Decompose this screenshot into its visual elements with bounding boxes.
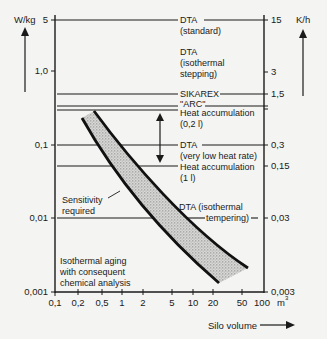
svg-text:(1 l): (1 l) — [180, 173, 196, 183]
x-unit: m — [277, 297, 285, 308]
svg-text:(isothermal: (isothermal — [180, 58, 225, 68]
svg-text:50: 50 — [237, 297, 248, 308]
label-dta-very-low: DTA — [180, 140, 197, 150]
arrow-up-icon — [299, 29, 307, 96]
label-sensitivity-required: Sensitivity — [62, 195, 103, 205]
double-arrow-icon — [156, 113, 164, 163]
left-ticks: 5 1,0 0,1 0,01 0,001 — [24, 14, 55, 297]
svg-text:0,003: 0,003 — [271, 286, 295, 297]
svg-text:chemical analysis: chemical analysis — [60, 278, 131, 288]
svg-text:1: 1 — [119, 297, 124, 308]
svg-text:with consequent: with consequent — [59, 267, 126, 277]
svg-text:(standard): (standard) — [180, 26, 221, 36]
svg-text:10: 10 — [188, 297, 199, 308]
label-dta-standard: DTA — [180, 15, 197, 25]
svg-text:0,3: 0,3 — [271, 139, 284, 150]
svg-text:3: 3 — [271, 66, 276, 77]
svg-text:5: 5 — [43, 14, 48, 25]
label-isothermal-aging: Isothermal aging — [60, 256, 127, 266]
svg-text:0,1: 0,1 — [48, 297, 61, 308]
svg-text:100: 100 — [254, 297, 270, 308]
svg-text:0,01: 0,01 — [30, 212, 49, 223]
svg-text:0,2: 0,2 — [71, 297, 84, 308]
svg-text:0,001: 0,001 — [24, 286, 48, 297]
label-dta-isothermal-stepping: DTA — [180, 47, 197, 57]
svg-text:(very low heat rate): (very low heat rate) — [180, 151, 257, 161]
svg-text:20: 20 — [208, 297, 219, 308]
label-dta-isothermal-tempering: DTA (isothermal — [179, 202, 243, 212]
label-heat-accumulation-0-2l: Heat accumulation — [180, 108, 255, 118]
svg-text:2: 2 — [140, 297, 145, 308]
method-labels: DTA (standard) DTA (isothermal stepping)… — [179, 15, 257, 223]
svg-text:1,0: 1,0 — [35, 65, 48, 76]
leader-line — [108, 191, 120, 198]
y-right-unit: K/h — [296, 14, 310, 25]
svg-text:1,5: 1,5 — [271, 88, 284, 99]
arrow-up-icon — [21, 27, 29, 92]
svg-text:0,5: 0,5 — [95, 297, 108, 308]
annotations: Sensitivity required Isothermal aging wi… — [59, 195, 131, 288]
arrow-right-icon — [260, 321, 295, 329]
svg-text:tempering): tempering) — [206, 213, 249, 223]
svg-text:required: required — [62, 206, 95, 216]
label-heat-accumulation-1l: Heat accumulation — [180, 162, 255, 172]
svg-text:0,15: 0,15 — [271, 160, 290, 171]
svg-text:5: 5 — [169, 297, 174, 308]
svg-text:(0,2 l): (0,2 l) — [180, 119, 203, 129]
y-left-unit: W/kg — [14, 14, 36, 25]
chart: W/kg K/h 5 1,0 0,1 0,01 0,001 15 3 1,5 0… — [0, 0, 327, 339]
svg-text:stepping): stepping) — [180, 69, 217, 79]
x-axis-title: Silo volume — [208, 320, 257, 331]
svg-text:0,03: 0,03 — [271, 212, 290, 223]
svg-text:15: 15 — [271, 14, 282, 25]
label-sikarex: SIKAREX — [180, 89, 219, 99]
right-ticks: 15 3 1,5 0,3 0,15 0,03 0,003 — [264, 14, 295, 297]
svg-text:0,1: 0,1 — [35, 139, 48, 150]
